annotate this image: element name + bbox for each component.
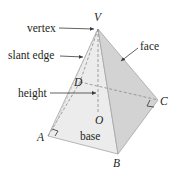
base-label: base — [80, 130, 100, 142]
slant-edge-label: slant edge — [8, 49, 54, 62]
point-O-label: O — [95, 114, 104, 126]
point-A-label: A — [36, 131, 45, 143]
point-B-label: B — [113, 157, 120, 169]
vertex-arrow — [59, 28, 94, 29]
face-label: face — [140, 40, 159, 52]
face-arrow — [121, 48, 138, 61]
point-C-label: C — [160, 95, 168, 107]
vertex-label: vertex — [27, 22, 56, 34]
point-D-label: D — [73, 76, 83, 88]
height-label: height — [18, 87, 48, 100]
pyramid-diagram: vertex slant edge face height base V D O… — [0, 0, 179, 176]
point-V-label: V — [94, 11, 103, 23]
slant-edge-arrow — [60, 56, 83, 57]
